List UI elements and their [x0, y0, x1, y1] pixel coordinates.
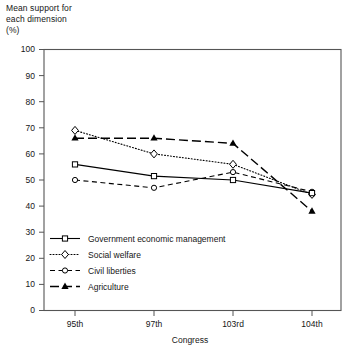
data-point-marker — [151, 174, 156, 179]
series-line-civil-liberties — [75, 172, 312, 192]
legend-item-government-economic-management[interactable]: Government economic management — [50, 234, 226, 244]
data-point-marker — [229, 139, 236, 145]
x-tick-label: 97th — [146, 319, 163, 329]
data-point-marker — [72, 177, 77, 182]
x-axis-title: Congress — [172, 335, 208, 345]
series-agriculture — [71, 134, 315, 214]
legend-triangle-marker-icon — [61, 283, 68, 289]
legend-circle-marker-icon — [62, 268, 67, 273]
series-line-agriculture — [75, 138, 312, 211]
legend-label: Civil liberties — [88, 266, 136, 276]
y-tick-label: 90 — [26, 71, 36, 81]
series-government-economic-management — [72, 162, 314, 196]
y-tick-label: 80 — [26, 97, 36, 107]
x-tick-label: 103rd — [222, 319, 244, 329]
legend-label: Government economic management — [88, 234, 226, 244]
legend-label: Social welfare — [88, 250, 141, 260]
y-tick-label: 40 — [26, 201, 36, 211]
legend-item-social-welfare[interactable]: Social welfare — [50, 250, 141, 260]
y-tick-label: 20 — [26, 253, 36, 263]
data-point-marker — [151, 150, 158, 158]
data-point-marker — [150, 134, 157, 140]
data-point-marker — [230, 160, 237, 168]
data-point-marker — [151, 185, 156, 190]
y-axis-tick-labels: 0 10 20 30 40 50 60 70 80 90 100 — [21, 44, 35, 315]
legend-square-marker-icon — [62, 236, 67, 241]
x-axis-ticks — [75, 311, 312, 317]
data-point-marker — [308, 207, 315, 213]
y-tick-label: 70 — [26, 123, 36, 133]
chart-legend: Government economic management Social we… — [50, 234, 226, 292]
y-tick-label: 50 — [26, 175, 36, 185]
x-axis-tick-labels: 95th 97th 103rd 104th — [67, 319, 323, 329]
y-tick-label: 10 — [26, 279, 36, 289]
y-tick-label: 30 — [26, 227, 36, 237]
x-tick-label: 95th — [67, 319, 84, 329]
y-tick-label: 0 — [30, 305, 35, 315]
legend-diamond-marker-icon — [62, 251, 69, 259]
data-point-marker — [72, 126, 79, 134]
series-line-government-economic-management — [75, 164, 312, 193]
y-tick-label: 60 — [26, 149, 36, 159]
data-point-marker — [309, 191, 314, 196]
series-line-social-welfare — [75, 130, 312, 194]
data-point-marker — [230, 170, 235, 175]
plot-area: 0 10 20 30 40 50 60 70 80 90 100 95th 97… — [0, 0, 362, 348]
legend-label: Agriculture — [88, 282, 129, 292]
y-axis-ticks — [39, 50, 44, 311]
y-tick-label: 100 — [21, 44, 35, 54]
data-point-marker — [230, 177, 235, 182]
data-point-marker — [72, 162, 77, 167]
legend-item-agriculture[interactable]: Agriculture — [50, 282, 129, 292]
chart-figure: Mean support for each dimension (%) 0 10… — [0, 0, 362, 348]
legend-item-civil-liberties[interactable]: Civil liberties — [50, 266, 136, 276]
x-tick-label: 104th — [301, 319, 323, 329]
